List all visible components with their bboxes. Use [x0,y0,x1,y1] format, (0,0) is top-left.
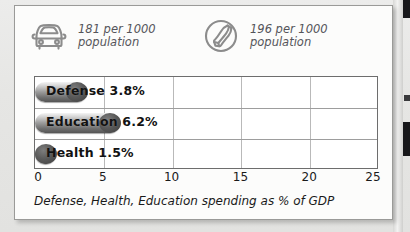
stat-item-telephones: 196 per 1000 population [201,16,328,56]
scan-edge-band [393,0,403,232]
stat-unit-telephones: population [250,36,328,49]
telephone-icon [201,16,241,56]
statistics-card: 181 per 1000 population 196 per 1000 [14,5,393,220]
scan-artifact-bottom [403,122,410,156]
stat-item-cars: 181 per 1000 population [29,16,156,56]
chart-caption: Defense, Health, Education spending as %… [34,194,334,208]
chart-x-axis: 0510152025 [34,170,378,185]
spending-bar-chart: Defense 3.8%Education 6.2%Health 1.5% 05… [34,76,379,176]
stat-text-telephones: 196 per 1000 population [250,23,328,49]
chart-bar-label-health: Health 1.5% [46,145,134,160]
car-icon [29,16,69,56]
stat-text-cars: 181 per 1000 population [78,23,156,49]
chart-bar-label-education: Education 6.2% [46,114,158,129]
stat-unit-cars: population [78,36,156,49]
scan-artifact-middle [404,95,410,101]
x-tick-label: 10 [164,170,179,184]
chart-bar-row: Defense 3.8% [35,77,377,108]
scan-artifact-top [403,0,410,18]
x-tick-label: 25 [365,170,380,184]
chart-bar-row: Education 6.2% [35,108,377,139]
chart-bar-row: Health 1.5% [35,139,377,169]
x-tick-label: 15 [233,170,248,184]
chart-bar-label-defense: Defense 3.8% [46,83,145,98]
x-tick-label: 0 [34,170,42,184]
stats-row: 181 per 1000 population 196 per 1000 [15,12,392,68]
x-tick-label: 5 [99,170,107,184]
chart-plot-area: Defense 3.8%Education 6.2%Health 1.5% [34,76,378,169]
x-tick-label: 20 [302,170,317,184]
